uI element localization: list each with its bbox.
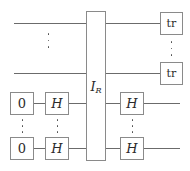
gate-tr-top-label: tr <box>166 18 176 29</box>
vertical-ellipsis-icon-h-right-column <box>130 119 135 133</box>
wire-rail4-h-to-ir <box>68 148 87 149</box>
wire-rail1-right <box>105 23 161 24</box>
gate-h-left-bottom-label: H <box>51 142 62 155</box>
gate-zero-top[interactable]: 0 <box>10 92 34 115</box>
gate-ir-label: IR <box>90 79 101 94</box>
gate-zero-top-label: 0 <box>18 97 26 110</box>
gate-h-right-top[interactable]: H <box>120 92 144 115</box>
gate-h-left-top-label: H <box>51 97 62 110</box>
gate-tr-bottom-label: tr <box>166 68 176 79</box>
wire-rail2-right <box>105 73 161 74</box>
wire-rail3-ir-to-h <box>105 103 121 104</box>
gate-ir[interactable]: IR <box>86 11 106 161</box>
wire-rail2-left <box>14 73 87 74</box>
wire-rail4-ir-to-h <box>105 148 121 149</box>
gate-h-left-bottom[interactable]: H <box>45 137 69 160</box>
gate-h-right-top-label: H <box>126 97 137 110</box>
gate-h-right-bottom-label: H <box>126 142 137 155</box>
wire-rail3-h-to-ir <box>68 103 87 104</box>
gate-h-left-top[interactable]: H <box>45 92 69 115</box>
wire-rail3-out <box>143 103 180 104</box>
gate-zero-bottom-label: 0 <box>18 142 26 155</box>
wire-rail1-left <box>14 23 87 24</box>
vertical-ellipsis-icon-upper-rails <box>46 33 51 48</box>
gate-zero-bottom[interactable]: 0 <box>10 137 34 160</box>
wire-rail4-out <box>143 148 180 149</box>
gate-tr-top[interactable]: tr <box>160 12 183 35</box>
quantum-circuit-diagram: IR 0 0 H H H H tr tr <box>0 0 190 171</box>
gate-tr-bottom[interactable]: tr <box>160 62 183 85</box>
vertical-ellipsis-icon-zero-column <box>20 119 25 133</box>
vertical-ellipsis-icon-h-left-column <box>55 119 60 133</box>
vertical-ellipsis-icon-tr-column <box>169 41 174 56</box>
gate-h-right-bottom[interactable]: H <box>120 137 144 160</box>
